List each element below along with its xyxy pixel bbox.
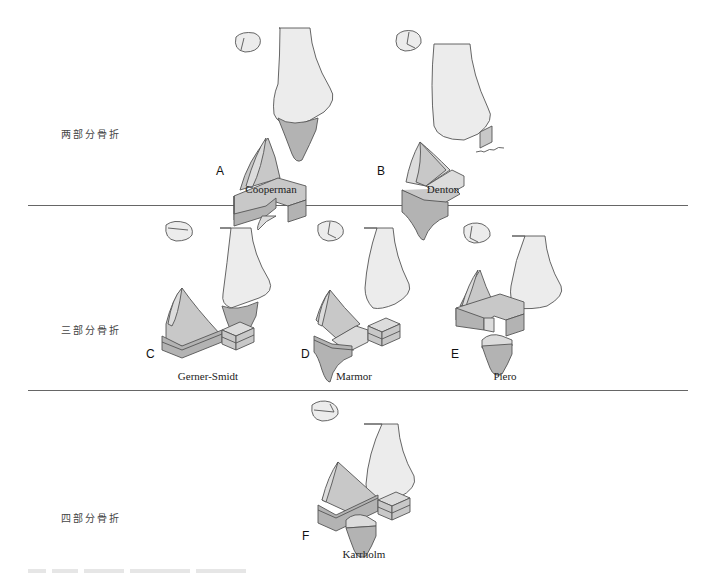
panel-name-karrholm: Karrholm	[343, 548, 386, 560]
fracture-diagram-f-icon	[0, 0, 711, 578]
cut-off-caption	[28, 569, 328, 575]
panel-letter-f: F	[302, 529, 309, 543]
